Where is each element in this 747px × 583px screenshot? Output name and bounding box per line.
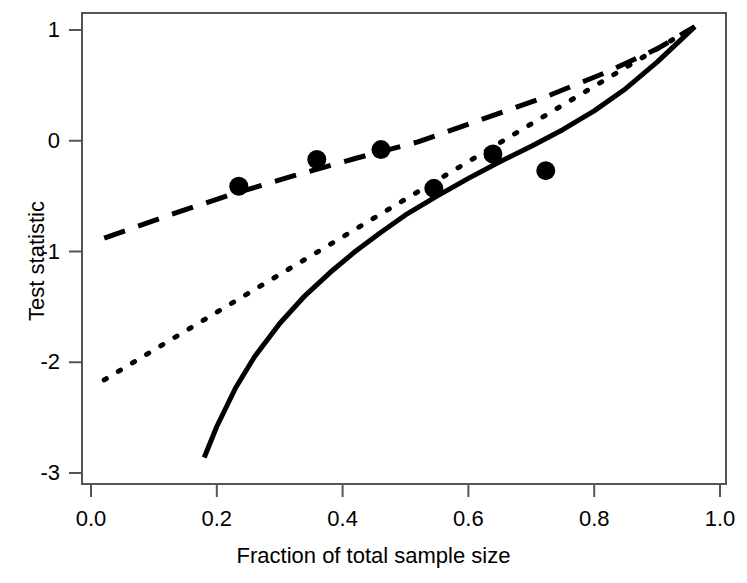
- x-tick-label: 0.4: [327, 508, 358, 530]
- x-tick-label: 0.0: [76, 508, 107, 530]
- y-axis-title: Test statistic: [26, 136, 48, 386]
- data-point-marker: [424, 179, 443, 198]
- series-solid-boundary: [204, 27, 695, 458]
- x-tick-label: 0.6: [453, 508, 484, 530]
- y-axis-ticks: [69, 30, 82, 473]
- data-point-marker: [307, 150, 326, 169]
- data-point-marker: [536, 161, 555, 180]
- x-tick-label: 0.8: [579, 508, 610, 530]
- y-tick-label: 1: [0, 19, 60, 41]
- series-dashed-boundary: [104, 27, 695, 239]
- plot-canvas: [0, 0, 747, 583]
- series-layer: [104, 27, 695, 458]
- chart-figure: 0.00.20.40.60.81.010-1-2-3 Fraction of t…: [0, 0, 747, 583]
- data-point-marker: [229, 177, 248, 196]
- x-tick-label: 0.2: [202, 508, 233, 530]
- x-axis-ticks: [91, 484, 720, 497]
- data-point-marker: [483, 145, 502, 164]
- data-point-marker: [371, 140, 390, 159]
- x-axis-title: Fraction of total sample size: [0, 545, 747, 567]
- y-tick-label: -3: [0, 462, 60, 484]
- x-tick-label: 1.0: [705, 508, 736, 530]
- series-dotted-boundary: [104, 27, 695, 380]
